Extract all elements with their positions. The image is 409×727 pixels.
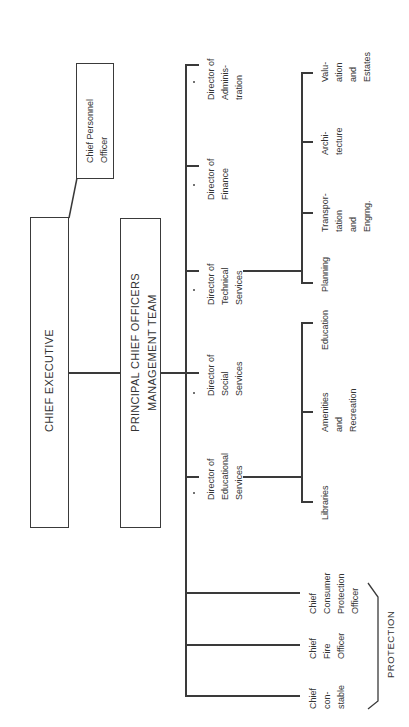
tick-planning — [301, 282, 313, 284]
director-administration-label: Director of Adminis- tration — [204, 58, 246, 100]
chief-fire-officer-label: Chief Fire Officer — [306, 633, 348, 659]
tick-architecture — [301, 141, 313, 143]
tick-educational — [185, 476, 199, 478]
asterisk-administration — [193, 81, 195, 83]
tick-valuation — [301, 72, 313, 74]
technical-connector — [243, 270, 301, 272]
educational-connector — [243, 476, 301, 478]
unit-transportation-label: Transpor- tation and Engrng. — [318, 193, 374, 232]
tick-education — [301, 322, 313, 324]
tick-libraries — [301, 501, 313, 503]
asterisk-finance — [193, 184, 195, 186]
line-fire — [185, 644, 300, 646]
unit-architecture-label: Archi- tecture — [318, 127, 346, 155]
asterisk-technical — [193, 289, 195, 291]
asterisk-educational — [193, 492, 195, 494]
line-constable — [185, 695, 300, 697]
management-team-label: PRINCIPAL CHIEF OFFICERS MANAGEMENT TEAM — [127, 273, 161, 432]
tick-technical — [185, 270, 199, 272]
unit-amenities-label: Amenities and Recreation — [318, 388, 360, 432]
tick-transportation — [301, 212, 313, 214]
tick-amenities — [301, 411, 313, 413]
team-to-spine-connector — [161, 372, 199, 374]
line-consumer-protection — [185, 592, 300, 594]
unit-education-label: Education — [318, 310, 332, 350]
director-technical-label: Director of Technical Services — [204, 263, 246, 305]
technical-bracket — [301, 72, 303, 283]
directors-spine — [185, 64, 187, 696]
protection-group-label: PROTECTION — [384, 611, 398, 678]
chief-consumer-protection-label: Chief Consumer Protection Officer — [306, 572, 362, 614]
tick-finance — [185, 165, 199, 167]
director-educational-label: Director of Educational Services — [204, 453, 246, 500]
ce-to-team-connector — [69, 372, 120, 374]
tick-administration — [185, 64, 199, 66]
director-social-label: Director of Social Services — [204, 354, 246, 396]
director-finance-label: Director of Finance — [204, 158, 232, 200]
asterisk-social — [193, 392, 195, 394]
chief-constable-label: Chief con- stable — [306, 685, 348, 709]
unit-planning-label: Planning — [318, 257, 332, 292]
unit-libraries-label: Libraries — [318, 485, 332, 520]
unit-valuation-label: Valu- ation and Estates — [318, 52, 374, 82]
